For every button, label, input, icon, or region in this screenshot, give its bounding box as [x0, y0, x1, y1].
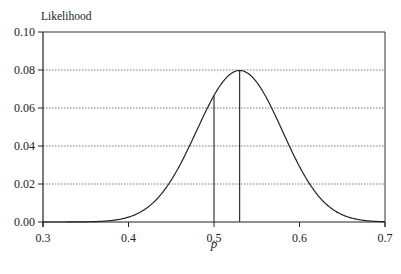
- x-tick-label: 0.3: [36, 231, 51, 245]
- y-tick-label: 0.02: [14, 177, 35, 191]
- y-axis-label: Likelihood: [41, 10, 92, 22]
- y-tick-label: 0.08: [14, 63, 35, 77]
- y-tick-label: 0.10: [14, 25, 35, 39]
- y-tick-label: 0.04: [14, 139, 35, 153]
- y-tick-label: 0.06: [14, 101, 35, 115]
- y-axis-ticks: 0.000.020.040.060.080.10: [14, 25, 43, 229]
- y-tick-label: 0.00: [14, 215, 35, 229]
- x-axis-label: p: [210, 236, 218, 251]
- x-tick-label: 0.6: [292, 231, 307, 245]
- x-tick-label: 0.7: [378, 231, 393, 245]
- x-tick-label: 0.4: [121, 231, 136, 245]
- likelihood-chart: Likelihood 0.000.020.040.060.080.10 0.30…: [0, 0, 401, 274]
